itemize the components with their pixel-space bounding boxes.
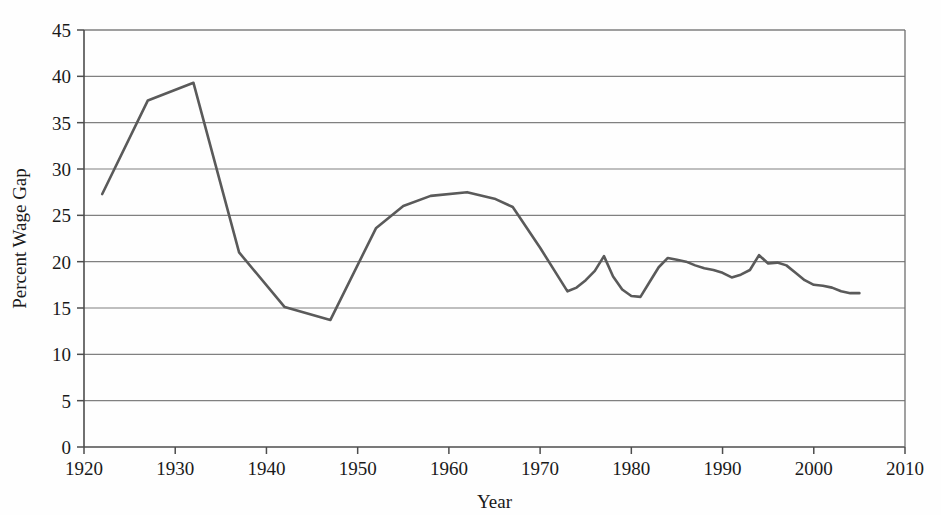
x-tick-label: 1940 [247, 458, 285, 479]
y-tick-label: 45 [52, 20, 71, 41]
chart-background [0, 0, 941, 515]
y-tick-label: 15 [52, 298, 71, 319]
x-tick-label: 2010 [886, 458, 924, 479]
y-tick-label: 35 [52, 113, 71, 134]
x-tick-label: 1950 [339, 458, 377, 479]
x-tick-label: 1990 [704, 458, 742, 479]
x-tick-label: 1980 [612, 458, 650, 479]
y-tick-label: 20 [52, 252, 71, 273]
y-tick-label: 40 [52, 66, 71, 87]
y-axis-title: Percent Wage Gap [9, 168, 30, 309]
figure-container: 051015202530354045 192019301940195019601… [0, 0, 941, 515]
y-tick-label: 30 [52, 159, 71, 180]
chart-plot-area: 051015202530354045 192019301940195019601… [0, 0, 941, 515]
y-tick-label: 5 [62, 391, 72, 412]
y-tick-label: 10 [52, 344, 71, 365]
x-tick-label: 1970 [521, 458, 559, 479]
x-tick-label: 1960 [430, 458, 468, 479]
y-tick-label: 0 [62, 437, 72, 458]
x-tick-label: 1920 [65, 458, 103, 479]
x-tick-label: 2000 [795, 458, 833, 479]
y-tick-label: 25 [52, 205, 71, 226]
x-axis-title: Year [477, 491, 513, 512]
line-chart: 051015202530354045 192019301940195019601… [0, 0, 941, 515]
x-tick-label: 1930 [156, 458, 194, 479]
